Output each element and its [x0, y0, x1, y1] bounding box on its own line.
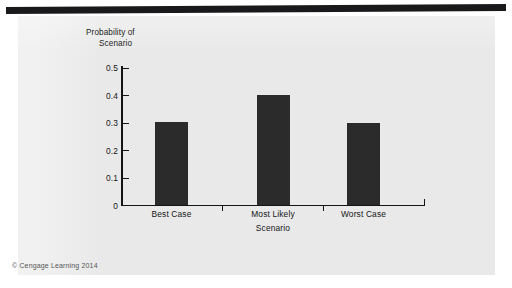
bar-most-likely [257, 95, 290, 205]
y-tick-label-0.2: 0.2 [84, 146, 118, 156]
y-axis-line [121, 66, 123, 206]
x-tick-sep-1 [222, 206, 223, 211]
y-tick-label-0.3: 0.3 [84, 118, 118, 128]
y-tick-0.3 [123, 123, 129, 124]
x-axis-title: Scenario [228, 223, 318, 233]
x-label-most-likely: Most Likely [228, 209, 318, 219]
y-tick-0.2 [123, 150, 129, 151]
y-tick-label-0.1: 0.1 [84, 173, 118, 183]
y-tick-0.4 [123, 95, 129, 96]
x-axis-line [121, 205, 425, 207]
y-axis-title-line1: Probability of [86, 27, 196, 38]
y-tick-label-0.5: 0.5 [84, 63, 118, 73]
x-label-worst-case: Worst Case [319, 209, 409, 219]
x-tick-end [424, 199, 425, 205]
y-axis-title: Probability of Scenario [86, 27, 196, 49]
x-label-best-case: Best Case [127, 209, 217, 219]
y-tick-label-0: 0 [84, 201, 118, 211]
bar-worst-case [347, 123, 380, 205]
copyright-notice: © Cengage Learning 2014 [12, 262, 98, 269]
y-tick-label-0.4: 0.4 [84, 91, 118, 101]
y-tick-0.1 [123, 178, 129, 179]
bar-chart: Probability of Scenario 0.5 0.4 0.3 0.2 … [0, 0, 512, 288]
bar-best-case [155, 122, 188, 205]
x-tick-start [121, 199, 122, 205]
y-axis-title-line2: Scenario [86, 38, 196, 49]
y-tick-0.5 [123, 68, 129, 69]
